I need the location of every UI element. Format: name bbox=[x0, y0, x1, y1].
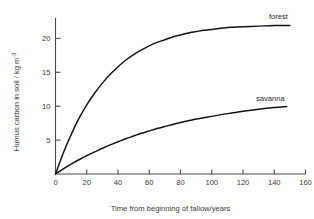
series-label-savanna: savanna bbox=[256, 94, 285, 103]
y-axis-title: Humus carbon in soil / kg m-3 bbox=[11, 53, 21, 152]
x-axis-title: Time from beginning of fallow/years bbox=[111, 204, 231, 213]
x-tick-label: 80 bbox=[176, 178, 184, 187]
humus-carbon-chart: 0204060801001201401605101520Time from be… bbox=[0, 0, 314, 219]
y-tick-label: 15 bbox=[42, 68, 50, 77]
chart-canvas: 0204060801001201401605101520Time from be… bbox=[0, 0, 314, 219]
x-tick-label: 60 bbox=[145, 178, 153, 187]
y-tick-label: 5 bbox=[46, 136, 50, 145]
x-tick-label: 160 bbox=[299, 178, 312, 187]
series-label-forest: forest bbox=[269, 12, 289, 21]
x-tick-label: 40 bbox=[114, 178, 122, 187]
series-curve-forest bbox=[56, 25, 290, 174]
x-tick-label: 140 bbox=[268, 178, 281, 187]
y-tick-label: 10 bbox=[42, 102, 50, 111]
x-tick-label: 20 bbox=[83, 178, 91, 187]
y-tick-label: 20 bbox=[42, 34, 50, 43]
x-tick-label: 100 bbox=[205, 178, 218, 187]
x-tick-label: 120 bbox=[237, 178, 250, 187]
series-curve-savanna bbox=[56, 107, 287, 174]
x-tick-label: 0 bbox=[53, 178, 57, 187]
